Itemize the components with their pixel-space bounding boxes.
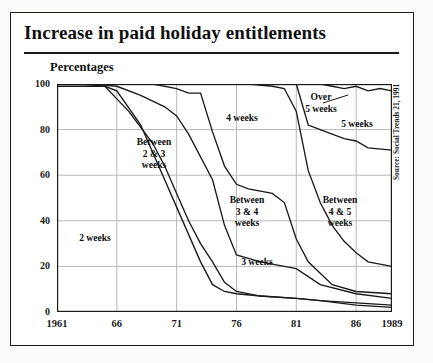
page-title: Increase in paid holiday entitlements <box>24 22 326 44</box>
x-tick-label: 81 <box>274 318 318 329</box>
band-label: 2 weeks <box>67 232 123 244</box>
y-tick-label: 100 <box>24 78 50 89</box>
band-label: 3 weeks <box>229 256 285 268</box>
y-tick-label: 0 <box>24 306 50 317</box>
y-tick-label: 60 <box>24 169 50 180</box>
y-tick-label: 20 <box>24 260 50 271</box>
band-label: Between 3 & 4 weeks <box>219 194 275 229</box>
y-tick-label: 40 <box>24 215 50 226</box>
y-axis-title: Percentages <box>50 60 114 75</box>
title-divider <box>24 52 399 54</box>
band-label: Between 2 & 3 weeks <box>126 136 182 171</box>
band-label: Between 4 & 5 weeks <box>312 194 368 229</box>
y-tick-label: 80 <box>24 124 50 135</box>
band-label: Over 5 weeks <box>293 91 349 114</box>
x-tick-label: 1961 <box>35 318 79 329</box>
source-note: Source: Social Trends 21, 1991 <box>392 84 401 180</box>
x-tick-label: 71 <box>155 318 199 329</box>
figure-container: Increase in paid holiday entitlements Pe… <box>0 0 433 363</box>
x-tick-label: 76 <box>214 318 258 329</box>
x-tick-label: 1989 <box>370 318 414 329</box>
band-label: 4 weeks <box>214 112 270 124</box>
band-label: 5 weeks <box>329 118 385 130</box>
x-tick-label: 66 <box>95 318 139 329</box>
